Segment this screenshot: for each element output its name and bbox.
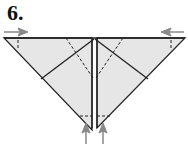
left-flap (4, 38, 92, 130)
right-flap (97, 38, 185, 128)
origami-diagram (0, 0, 188, 156)
bottom-push-arrows-icon (82, 123, 107, 144)
left-push-arrow-icon (4, 28, 28, 36)
right-push-arrow-icon (161, 28, 184, 36)
